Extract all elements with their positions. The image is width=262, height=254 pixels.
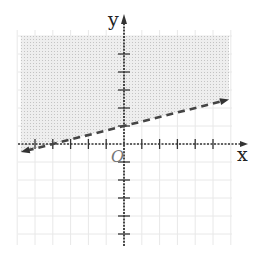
- y-axis-arrow-icon: [121, 14, 127, 24]
- boundary-arrow-right-icon: [219, 98, 229, 105]
- x-axis-label: x: [237, 143, 248, 165]
- origin-label: O: [111, 147, 124, 166]
- y-axis-label: y: [107, 8, 119, 30]
- inequality-graph: y x O: [0, 0, 262, 254]
